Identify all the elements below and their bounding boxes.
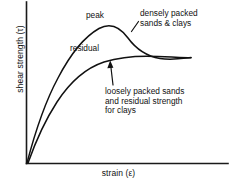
annotation-loosely-packed-sands: loosely packed sands and residual streng… bbox=[105, 87, 184, 116]
chart-figure: shear strength (τ) strain (ε) peak dense… bbox=[0, 0, 237, 190]
leader-line-dense bbox=[132, 22, 139, 32]
y-axis-label: shear strength (τ) bbox=[9, 0, 23, 119]
y-axis-label-text: shear strength (τ) bbox=[15, 25, 25, 93]
x-axis-label: strain (ε) bbox=[0, 168, 237, 178]
annotation-residual: residual bbox=[70, 44, 99, 54]
annotation-peak: peak bbox=[86, 11, 104, 21]
annotation-densely-packed-sands-and-clays: densely packed sands & clays bbox=[140, 9, 198, 28]
arrow-head-loose bbox=[107, 61, 113, 69]
